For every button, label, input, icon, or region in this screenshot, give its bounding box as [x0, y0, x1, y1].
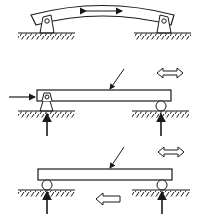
beam-support-diagram — [0, 0, 205, 223]
ground-right — [134, 33, 191, 40]
roller-support-right — [157, 180, 167, 190]
ground-right — [132, 190, 190, 197]
hollow-left-arrow-icon — [96, 193, 120, 205]
hollow-double-arrow-icon — [158, 147, 184, 157]
hollow-double-arrow-icon — [157, 68, 183, 78]
ground-left — [18, 33, 75, 40]
diagonal-pointer-arrow-icon — [110, 69, 124, 89]
panel-1-curved-beam — [18, 6, 191, 40]
panel-2-pin-roller-beam — [9, 68, 189, 136]
diagonal-pointer-arrow-icon — [110, 147, 124, 168]
straight-beam — [38, 169, 172, 180]
straight-beam — [37, 90, 171, 101]
roller-support-left — [42, 180, 52, 190]
panel-3-roller-roller-beam — [18, 147, 190, 214]
roller-support-right — [156, 101, 166, 111]
